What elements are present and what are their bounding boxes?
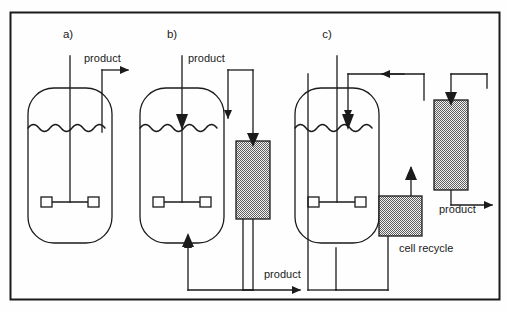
impeller-blade-a-left xyxy=(41,197,52,207)
product-label-b-bottom: product xyxy=(264,268,301,280)
figure-canvas: a) b) c) product product product product… xyxy=(0,0,509,312)
separator-column-b xyxy=(236,141,270,219)
cell-recycle-label: cell recycle xyxy=(399,242,453,254)
impeller-blade-b-left xyxy=(153,197,164,207)
panel-label-b: b) xyxy=(167,28,177,40)
impeller-blade-c-left xyxy=(308,197,319,207)
impeller-blade-c-right xyxy=(355,197,366,207)
product-label-c: product xyxy=(439,203,476,215)
impeller-blade-b-right xyxy=(200,197,211,207)
separator-column-c xyxy=(434,100,468,190)
product-label-b-top: product xyxy=(188,52,225,64)
cell-recycle-unit-c xyxy=(379,196,422,236)
product-label-a: product xyxy=(84,52,121,64)
panel-label-c: c) xyxy=(322,28,332,40)
panel-label-a: a) xyxy=(63,28,73,40)
impeller-blade-a-right xyxy=(88,197,99,207)
process-flow-diagram: a) b) c) product product product product… xyxy=(0,0,509,312)
